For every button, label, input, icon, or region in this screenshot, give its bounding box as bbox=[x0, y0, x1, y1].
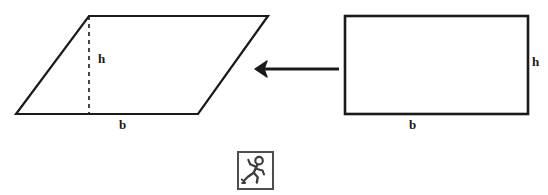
parallelogram-base-label: b bbox=[119, 118, 126, 131]
running-person-icon[interactable] bbox=[237, 151, 274, 190]
rectangle-shape bbox=[345, 16, 528, 114]
parallelogram-height-label: h bbox=[98, 52, 105, 65]
geometry-figure bbox=[0, 0, 548, 195]
running-person-glyph bbox=[239, 153, 272, 188]
rectangle-base-label: b bbox=[409, 118, 416, 131]
diagram-canvas: h b h b bbox=[0, 0, 548, 195]
rectangle-height-label: h bbox=[532, 55, 539, 68]
parallelogram-shape bbox=[16, 16, 268, 114]
